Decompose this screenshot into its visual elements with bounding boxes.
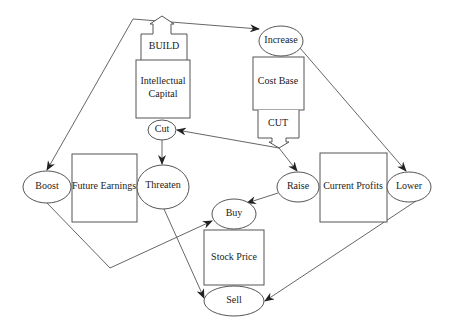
edge-build-boost xyxy=(47,19,133,170)
boost-label: Boost xyxy=(35,180,59,191)
current-profits-label: Current Profits xyxy=(323,180,383,191)
build-label: BUILD xyxy=(149,40,180,51)
edge-cutbox-raise xyxy=(279,148,297,171)
sell-label: Sell xyxy=(226,294,242,305)
edge-raise-buy xyxy=(247,193,278,203)
cost-base-label: Cost Base xyxy=(258,75,299,86)
edge-threaten-sell xyxy=(164,209,204,298)
raise-node: Raise xyxy=(277,172,319,202)
cost-base-node: Cost Base xyxy=(253,57,304,110)
cut-label: Cut xyxy=(155,123,170,134)
buy-node: Buy xyxy=(212,199,256,229)
buy-label: Buy xyxy=(226,207,243,218)
cut-box-label: CUT xyxy=(268,117,288,128)
diagram-canvas: BUILD Intellectual Capital Increase Cost… xyxy=(0,0,452,334)
threaten-node: Threaten xyxy=(137,165,189,209)
sell-node: Sell xyxy=(204,286,264,316)
raise-label: Raise xyxy=(287,180,310,191)
current-profits-node: Current Profits xyxy=(320,153,387,222)
intellectual-capital-label-1: Intellectual xyxy=(141,75,186,86)
stock-price-label: Stock Price xyxy=(211,251,257,262)
cut-box-node: CUT xyxy=(258,110,299,148)
boost-node: Boost xyxy=(23,171,71,203)
cut-arrow-icon xyxy=(258,110,299,148)
lower-label: Lower xyxy=(396,180,423,191)
increase-node: Increase xyxy=(259,26,303,56)
stock-price-node: Stock Price xyxy=(204,230,264,285)
future-earnings-node: Future Earnings xyxy=(72,154,137,222)
intellectual-capital-node: Intellectual Capital xyxy=(136,60,190,118)
future-earnings-label: Future Earnings xyxy=(72,180,136,191)
lower-node: Lower xyxy=(387,172,431,202)
intellectual-capital-label-2: Capital xyxy=(149,88,178,99)
threaten-label: Threaten xyxy=(145,179,181,190)
increase-label: Increase xyxy=(264,34,298,45)
cut-node: Cut xyxy=(148,120,176,140)
